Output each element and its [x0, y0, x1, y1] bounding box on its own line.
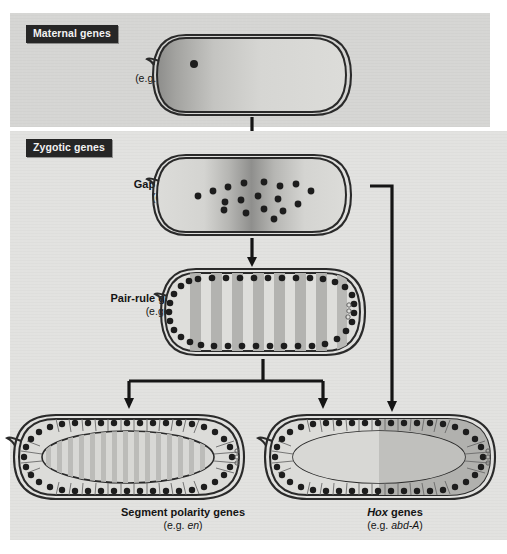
segment-polarity-title: Segment polarity genes	[38, 506, 328, 519]
section-tag-zygotic: Zygotic genes	[26, 139, 112, 157]
egg-body	[157, 158, 346, 232]
hox-example-text: (e.g. abd-A)	[300, 519, 490, 532]
hox-genes-title: Hox genes	[300, 506, 490, 519]
section-tag-maternal: Maternal genes	[26, 25, 118, 43]
nucleus-dot	[190, 60, 198, 68]
figure-canvas: Maternal genes (e.g. bicoid)	[0, 0, 507, 554]
embryo-pair-rule-stage	[152, 263, 374, 359]
segment-polarity-example-text: (e.g. en)	[38, 519, 328, 532]
hox-plain-word: genes	[388, 506, 423, 518]
embryo-hox-stage	[255, 411, 503, 503]
egg-body	[157, 38, 346, 112]
embryo-maternal-stage	[146, 32, 356, 118]
arrow-gap-to-hox	[370, 184, 400, 414]
hox-gene-name: abd-A	[391, 519, 419, 531]
embryo-segment-polarity-stage	[4, 411, 252, 503]
micropyle-hook	[7, 437, 21, 446]
segment-polarity-gene-name: en	[187, 519, 199, 531]
hox-italic-word: Hox	[367, 506, 388, 518]
arrow-pairrule-branch	[120, 359, 332, 411]
micropyle-hook	[258, 437, 272, 446]
label-hox-genes: Hox genes (e.g. abd-A)	[300, 506, 490, 532]
embryo-gap-stage	[146, 152, 356, 238]
label-segment-polarity-genes: Segment polarity genes (e.g. en)	[38, 506, 328, 532]
